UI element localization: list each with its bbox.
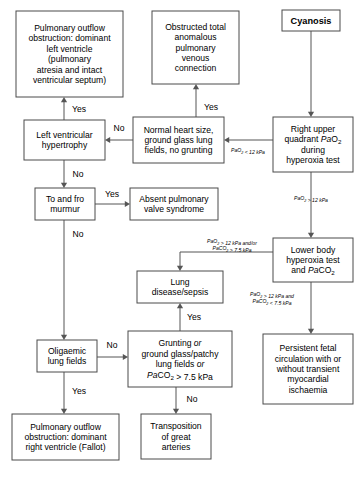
node-normal-heart-size-label: fields, no grunting bbox=[145, 145, 213, 155]
node-absent-pulmonary-valve-syndrome[interactable]: Absent pulmonaryvalve syndrome bbox=[130, 188, 218, 220]
node-obstructed-tapvc-label: connection bbox=[175, 63, 217, 73]
node-persistent-fetal-circulation-label: Persistent fetal bbox=[280, 343, 337, 353]
edge-grunting-to-tga bbox=[173, 387, 179, 414]
node-right-upper-quadrant-pao2-label: quadrant PaO2 bbox=[285, 134, 343, 145]
node-right-upper-quadrant-pao2[interactable]: Right upperquadrant PaO2duringhyperoxia … bbox=[273, 117, 353, 172]
edge-lower-body-to-pfc-arrowhead bbox=[308, 329, 314, 334]
edge-ruq-to-lower-body-arrowhead bbox=[308, 233, 314, 238]
node-lower-body-hyperoxia-test-label: hyperoxia test bbox=[286, 255, 340, 265]
edge-label-murmur-no: No bbox=[73, 229, 84, 239]
cond-label-pao2-less-12-line-0: PaO2 < 12 kPa bbox=[231, 147, 265, 155]
node-transposition-great-arteries-label: arteries bbox=[162, 442, 191, 452]
node-normal-heart-size-label: Normal heart size, bbox=[144, 125, 214, 135]
edge-normal-heart-to-lvh-arrowhead bbox=[105, 137, 110, 143]
node-persistent-fetal-circulation-label: circulation with or bbox=[275, 354, 342, 364]
node-persistent-fetal-circulation[interactable]: Persistent fetalcirculation with orwitho… bbox=[263, 334, 353, 404]
edge-label-lvh-yes: Yes bbox=[72, 104, 86, 114]
node-transposition-great-arteries-label: of great bbox=[161, 432, 191, 442]
node-transposition-great-arteries[interactable]: Transpositionof greatarteries bbox=[141, 414, 211, 459]
edge-oligaemic-to-grunting bbox=[97, 354, 128, 360]
node-left-ventricular-hypertrophy-label: hypertrophy bbox=[42, 140, 88, 150]
node-to-and-fro-murmur-label: murmur bbox=[50, 204, 80, 214]
edge-label-grunting-yes: Yes bbox=[187, 312, 201, 322]
edge-murmur-to-absent-valve bbox=[95, 201, 130, 207]
cond-label-pao2-greater-12-line-0: PaO2 > 12 kPa bbox=[294, 195, 328, 203]
node-obstructed-tapvc-label: pulmonary bbox=[175, 43, 216, 53]
node-obstructed-tapvc-label: Obstructed total bbox=[165, 22, 226, 32]
edge-lvh-to-murmur bbox=[61, 160, 67, 188]
edge-cyanosis-to-ruq-arrowhead bbox=[308, 112, 314, 117]
node-normal-heart-size[interactable]: Normal heart size,ground glass lungfield… bbox=[133, 117, 224, 163]
edge-lower-body-to-pfc bbox=[308, 282, 314, 334]
edge-lvh-to-pulm-outflow-lv bbox=[61, 97, 67, 120]
edge-normal-heart-to-tapvc bbox=[193, 84, 199, 117]
node-absent-pulmonary-valve-syndrome-label: Absent pulmonary bbox=[139, 194, 209, 204]
edge-cyanosis-to-ruq bbox=[308, 31, 314, 117]
edge-lower-body-to-lung-disease-line bbox=[180, 252, 273, 266]
node-right-upper-quadrant-pao2-label: Right upper bbox=[291, 124, 336, 134]
node-oligaemic-lung-fields[interactable]: Oligaemiclung fields bbox=[37, 340, 97, 372]
node-pulmonary-outflow-obstruction-right-ventricle[interactable]: Pulmonary outflowobstruction: dominantri… bbox=[12, 414, 119, 460]
edge-label-grunting-no: No bbox=[187, 394, 198, 404]
edge-lvh-to-pulm-outflow-lv-arrowhead bbox=[61, 97, 67, 102]
edge-murmur-to-oligaemic bbox=[61, 220, 67, 340]
node-to-and-fro-murmur[interactable]: To and fromurmur bbox=[35, 188, 95, 220]
node-right-upper-quadrant-pao2-label: hyperoxia test bbox=[286, 155, 340, 165]
node-cyanosis[interactable]: Cyanosis bbox=[282, 10, 340, 31]
node-obstructed-tapvc[interactable]: Obstructed totalanomalouspulmonaryvenous… bbox=[152, 11, 239, 84]
node-lung-disease-sepsis-label: Lung bbox=[170, 277, 189, 287]
node-to-and-fro-murmur-label: To and fro bbox=[46, 194, 84, 204]
node-obstructed-tapvc-label: venous bbox=[182, 53, 210, 63]
edge-ruq-to-normal-heart bbox=[224, 137, 273, 143]
node-left-ventricular-hypertrophy[interactable]: Left ventricularhypertrophy bbox=[24, 120, 105, 160]
edge-ruq-to-normal-heart-arrowhead bbox=[224, 137, 229, 143]
node-cyanosis-label: Cyanosis bbox=[291, 16, 332, 26]
node-grunting-ground-glass-label: ground glass/patchy bbox=[142, 349, 220, 359]
node-oligaemic-lung-fields-label: Oligaemic bbox=[48, 346, 87, 356]
node-pulmonary-outflow-obstruction-left-ventricle-label: atresia and intact bbox=[37, 65, 103, 75]
node-lung-disease-sepsis[interactable]: Lungdisease/sepsis bbox=[137, 271, 223, 303]
node-pulmonary-outflow-obstruction-right-ventricle-label: Pulmonary outflow bbox=[30, 422, 101, 432]
node-pulmonary-outflow-obstruction-left-ventricle-label: (pulmonary bbox=[48, 54, 92, 64]
edge-lower-body-to-lung-disease bbox=[177, 252, 273, 271]
node-right-upper-quadrant-pao2-label: during bbox=[301, 145, 325, 155]
node-pulmonary-outflow-obstruction-left-ventricle-label: ventricular septum) bbox=[33, 75, 106, 85]
node-obstructed-tapvc-label: anomalous bbox=[174, 32, 216, 42]
edge-ruq-to-lower-body bbox=[308, 172, 314, 238]
node-grunting-ground-glass-label: Grunting or bbox=[158, 338, 202, 348]
node-persistent-fetal-circulation-label: ischaemia bbox=[289, 385, 328, 395]
edge-label-tapvc-yes: Yes bbox=[204, 102, 218, 112]
node-grunting-ground-glass-label: lung fields or bbox=[156, 359, 206, 369]
node-pulmonary-outflow-obstruction-right-ventricle-label: right ventricle (Fallot) bbox=[25, 442, 105, 452]
edge-oligaemic-to-grunting-arrowhead bbox=[123, 354, 128, 360]
node-persistent-fetal-circulation-label: myocardial bbox=[287, 374, 329, 384]
edge-oligaemic-to-pulm-outflow-rv bbox=[61, 372, 67, 414]
edge-grunting-to-lung-disease bbox=[177, 303, 183, 331]
nodes-layer: CyanosisRight upperquadrant PaO2duringhy… bbox=[12, 10, 353, 460]
node-transposition-great-arteries-label: Transposition bbox=[150, 421, 201, 431]
node-persistent-fetal-circulation-label: without transient bbox=[276, 364, 340, 374]
node-pulmonary-outflow-obstruction-left-ventricle[interactable]: Pulmonary outflowobstruction: dominantle… bbox=[16, 11, 123, 97]
edge-normal-heart-to-tapvc-arrowhead bbox=[193, 84, 199, 89]
node-pulmonary-outflow-obstruction-right-ventricle-label: obstruction: dominant bbox=[24, 432, 107, 442]
node-pulmonary-outflow-obstruction-left-ventricle-label: left ventricle bbox=[47, 44, 93, 54]
edge-normal-heart-to-lvh bbox=[105, 137, 133, 143]
edge-grunting-to-lung-disease-arrowhead bbox=[177, 303, 183, 308]
node-grunting-ground-glass[interactable]: Grunting orground glass/patchylung field… bbox=[128, 331, 232, 387]
node-lung-disease-sepsis-label: disease/sepsis bbox=[152, 287, 208, 297]
node-lower-body-hyperoxia-test-label: Lower body bbox=[291, 245, 336, 255]
node-lower-body-hyperoxia-test-label: and PaCO2 bbox=[291, 265, 335, 276]
edge-murmur-to-absent-valve-arrowhead bbox=[125, 201, 130, 207]
node-pulmonary-outflow-obstruction-left-ventricle-label: Pulmonary outflow bbox=[34, 23, 105, 33]
edge-label-oligaemic-no: No bbox=[107, 340, 118, 350]
node-absent-pulmonary-valve-syndrome-label: valve syndrome bbox=[144, 204, 204, 214]
node-oligaemic-lung-fields-label: lung fields bbox=[48, 356, 87, 366]
node-lower-body-hyperoxia-test[interactable]: Lower bodyhyperoxia testand PaCO2 bbox=[273, 238, 353, 282]
node-left-ventricular-hypertrophy-label: Left ventricular bbox=[36, 130, 93, 140]
edge-label-oligaemic-yes: Yes bbox=[72, 386, 86, 396]
edge-murmur-to-oligaemic-arrowhead bbox=[61, 335, 67, 340]
edge-grunting-to-tga-arrowhead bbox=[173, 409, 179, 414]
node-pulmonary-outflow-obstruction-left-ventricle-label: obstruction: dominant bbox=[28, 33, 111, 43]
cond-label-pao2-12-and-paco2-less-75-line-1: PaCO2 < 7.5 kPa bbox=[252, 298, 291, 306]
edge-lower-body-to-lung-disease-arrowhead bbox=[177, 266, 183, 271]
